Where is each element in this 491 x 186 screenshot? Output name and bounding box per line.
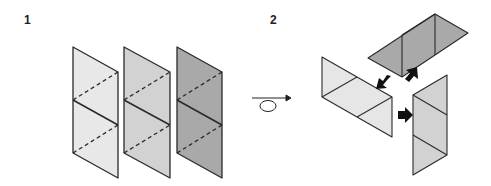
piece-light-left xyxy=(322,57,392,137)
piece-medium-right xyxy=(413,75,447,175)
sheet-medium xyxy=(124,47,170,178)
piece-dark-top xyxy=(368,14,468,77)
rotate-loop-arrow-icon xyxy=(252,95,291,112)
origami-diagram xyxy=(0,0,491,186)
arrow-into-right-piece xyxy=(398,107,413,123)
sheet-dark xyxy=(177,47,222,178)
arrow-into-left-piece xyxy=(376,75,391,89)
sheet-light xyxy=(73,47,118,178)
